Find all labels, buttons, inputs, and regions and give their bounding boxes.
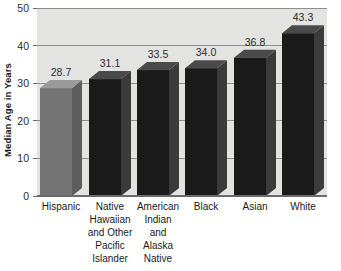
y-axis-title: Median Age in Years xyxy=(2,63,13,157)
bar-side-face xyxy=(217,60,227,196)
bar-front-face xyxy=(282,33,314,196)
category-label-line: Asian xyxy=(242,201,267,212)
category-label-line: and xyxy=(150,227,167,238)
bar-side-face xyxy=(266,50,276,196)
bar-2 xyxy=(89,71,131,196)
category-label-line: Native xyxy=(96,201,125,212)
category-label-line: Hispanic xyxy=(42,201,80,212)
category-label-line: Hawaiian xyxy=(89,214,130,225)
category-label-line: Pacific xyxy=(95,240,124,251)
category-label-line: American xyxy=(137,201,179,212)
bar-front-face xyxy=(185,68,217,196)
y-tick-label: 50 xyxy=(17,2,29,14)
bar-front-face xyxy=(89,79,121,196)
y-tick-label: 10 xyxy=(17,152,29,164)
y-axis-tickmarks xyxy=(33,8,37,196)
category-label-line: Indian xyxy=(144,214,171,225)
bar-6 xyxy=(282,25,324,196)
bar-side-face xyxy=(72,80,82,196)
bar-value-label: 28.7 xyxy=(51,66,72,78)
category-label-line: and Other xyxy=(88,227,133,238)
y-tick-label: 0 xyxy=(23,190,29,202)
bar-value-label: 36.8 xyxy=(245,36,266,48)
category-label-line: Islander xyxy=(92,253,128,264)
x-axis-category-labels: HispanicNativeHawaiianand OtherPacificIs… xyxy=(42,201,316,264)
chart-canvas: 01020304050 28.731.133.534.036.843.3 His… xyxy=(0,0,341,271)
bar-5 xyxy=(234,50,276,196)
y-axis-tick-labels: 01020304050 xyxy=(17,2,29,202)
y-tick-label: 20 xyxy=(17,115,29,127)
bar-3 xyxy=(137,62,179,196)
bar-value-label: 43.3 xyxy=(293,11,314,23)
bar-side-face xyxy=(121,71,131,196)
category-label-line: Alaska xyxy=(143,240,173,251)
y-tick-label: 40 xyxy=(17,40,29,52)
bar-chart-figure: 01020304050 28.731.133.534.036.843.3 His… xyxy=(0,0,341,271)
category-label-line: Native xyxy=(144,253,173,264)
bar-4 xyxy=(185,60,227,196)
bar-front-face xyxy=(137,70,169,196)
category-label-line: Black xyxy=(194,201,219,212)
y-tick-label: 30 xyxy=(17,77,29,89)
bar-value-label: 31.1 xyxy=(100,57,121,69)
bar-1 xyxy=(40,80,82,196)
bar-side-face xyxy=(314,25,324,196)
bar-front-face xyxy=(40,88,72,196)
bar-side-face xyxy=(169,62,179,196)
category-label-line: White xyxy=(290,201,316,212)
bar-front-face xyxy=(234,58,266,196)
bar-value-label: 34.0 xyxy=(196,46,217,58)
bar-value-label: 33.5 xyxy=(148,48,169,60)
